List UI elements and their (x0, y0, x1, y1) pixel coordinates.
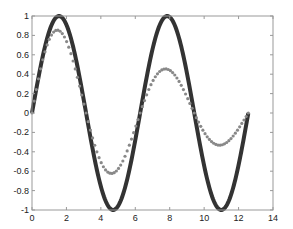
marker-asterisk (238, 125, 241, 128)
y-tick-label: -0.8 (13, 186, 29, 196)
y-tick-label: 0.2 (16, 89, 29, 99)
marker-asterisk (177, 80, 180, 83)
y-tick-label: 0.8 (16, 30, 29, 40)
x-tick-label: 10 (199, 213, 209, 223)
marker-asterisk (76, 76, 79, 79)
marker-asterisk (128, 144, 131, 147)
marker-asterisk (197, 120, 200, 123)
marker-asterisk (206, 135, 209, 138)
marker-asterisk (43, 50, 46, 53)
marker-asterisk (186, 97, 189, 100)
marker-asterisk (184, 92, 187, 95)
marker-asterisk (46, 43, 49, 46)
marker-asterisk (115, 169, 118, 172)
series-layer (30, 16, 250, 210)
marker-asterisk (139, 111, 142, 114)
marker-asterisk (182, 88, 185, 91)
marker-asterisk (147, 88, 150, 91)
marker-asterisk (33, 99, 36, 102)
marker-asterisk (171, 71, 174, 74)
marker-asterisk (61, 32, 64, 35)
marker-asterisk (195, 116, 198, 119)
marker-asterisk (149, 83, 152, 86)
marker-asterisk (188, 102, 191, 105)
marker-asterisk (82, 102, 85, 105)
x-tick-label: 6 (133, 213, 138, 223)
marker-asterisk (35, 88, 38, 91)
line-chart: 02468101214-1-0.8-0.6-0.4-0.200.20.40.60… (0, 0, 293, 229)
y-tick-label: -0.6 (13, 166, 29, 176)
marker-asterisk (247, 111, 250, 114)
x-tick-label: 4 (98, 213, 103, 223)
x-tick-label: 14 (268, 213, 278, 223)
x-tick-label: 12 (234, 213, 244, 223)
marker-asterisk (95, 150, 98, 153)
marker-asterisk (134, 125, 137, 128)
marker-asterisk (63, 35, 66, 38)
marker-asterisk (180, 84, 183, 87)
marker-asterisk (199, 125, 202, 128)
marker-asterisk (154, 75, 157, 78)
marker-asterisk (119, 163, 122, 166)
marker-asterisk (232, 134, 235, 137)
marker-asterisk (229, 137, 232, 140)
marker-asterisk (80, 93, 83, 96)
y-tick-label: -0.4 (13, 147, 29, 157)
marker-asterisk (190, 107, 193, 110)
marker-asterisk (201, 129, 204, 132)
marker-asterisk (89, 128, 92, 131)
marker-asterisk (143, 99, 146, 102)
y-tick-label: -1 (21, 205, 29, 215)
marker-asterisk (37, 77, 40, 80)
marker-asterisk (123, 155, 126, 158)
marker-asterisk (130, 137, 133, 140)
marker-asterisk (48, 38, 51, 41)
y-tick-label: 1 (24, 11, 29, 21)
marker-asterisk (87, 120, 90, 123)
marker-asterisk (173, 73, 176, 76)
x-tick-label: 2 (64, 213, 69, 223)
marker-asterisk (245, 115, 248, 118)
marker-asterisk (145, 93, 148, 96)
marker-asterisk (50, 33, 53, 36)
marker-asterisk (100, 161, 103, 164)
y-tick-label: 0.6 (16, 50, 29, 60)
marker-asterisk (236, 129, 239, 132)
marker-asterisk (93, 144, 96, 147)
marker-asterisk (84, 111, 87, 114)
y-tick-label: 0.4 (16, 69, 29, 79)
marker-asterisk (136, 118, 139, 121)
marker-asterisk (91, 136, 94, 139)
marker-asterisk (78, 84, 81, 87)
marker-asterisk (175, 76, 178, 79)
marker-asterisk (141, 105, 144, 108)
marker-asterisk (132, 131, 135, 134)
marker-asterisk (203, 132, 206, 135)
marker-asterisk (126, 149, 129, 152)
marker-asterisk (117, 167, 120, 170)
marker-asterisk (193, 111, 196, 114)
marker-asterisk (74, 67, 77, 70)
marker-asterisk (234, 132, 237, 135)
marker-asterisk (97, 156, 100, 159)
marker-asterisk (39, 67, 42, 70)
marker-asterisk (152, 79, 155, 82)
y-tick-label: -0.2 (13, 127, 29, 137)
x-tick-label: 0 (29, 213, 34, 223)
marker-asterisk (102, 165, 105, 168)
marker-asterisk (121, 159, 124, 162)
marker-asterisk (72, 59, 75, 62)
marker-asterisk (242, 118, 245, 121)
marker-asterisk (240, 122, 243, 125)
x-tick-label: 8 (167, 213, 172, 223)
marker-asterisk (69, 52, 72, 55)
y-tick-label: 0 (24, 108, 29, 118)
ticks-layer: 02468101214-1-0.8-0.6-0.4-0.200.20.40.60… (13, 11, 278, 223)
marker-asterisk (67, 46, 70, 49)
marker-asterisk (65, 40, 68, 43)
marker-asterisk (41, 58, 44, 61)
